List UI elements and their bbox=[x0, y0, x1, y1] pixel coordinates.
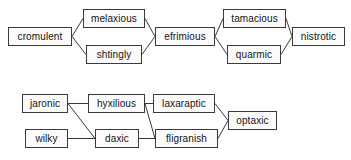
node-label: tamacious bbox=[231, 14, 277, 24]
node-daxic[interactable]: daxic bbox=[95, 129, 139, 148]
node-laxaraptic[interactable]: laxaraptic bbox=[153, 94, 215, 113]
node-tamacious[interactable]: tamacious bbox=[223, 9, 286, 28]
node-wilky[interactable]: wilky bbox=[25, 129, 68, 148]
node-label: hyxilious bbox=[97, 99, 136, 109]
edge-fligranish-to-optaxic bbox=[218, 121, 228, 139]
node-label: fligranish bbox=[166, 134, 207, 144]
node-label: jaronic bbox=[30, 99, 60, 109]
edge-laxaraptic-to-optaxic bbox=[215, 104, 228, 121]
node-label: optaxic bbox=[236, 116, 268, 126]
node-label: efrimious bbox=[164, 32, 205, 42]
node-nistrotic[interactable]: nistrotic bbox=[292, 27, 345, 46]
node-label: nistrotic bbox=[301, 32, 336, 42]
edge-efrimious-to-quarmic bbox=[215, 37, 227, 55]
node-optaxic[interactable]: optaxic bbox=[228, 111, 277, 130]
edge-efrimious-to-tamacious bbox=[215, 19, 223, 37]
node-label: shtingly bbox=[97, 50, 132, 60]
node-jaronic[interactable]: jaronic bbox=[22, 94, 68, 113]
node-quarmic[interactable]: quarmic bbox=[227, 45, 281, 64]
node-fligranish[interactable]: fligranish bbox=[155, 129, 218, 148]
node-label: quarmic bbox=[236, 50, 272, 60]
edge-melaxious-to-efrimious bbox=[145, 19, 155, 37]
node-melaxious[interactable]: melaxious bbox=[83, 9, 145, 28]
node-efrimious[interactable]: efrimious bbox=[155, 27, 215, 46]
edge-cromulent-to-melaxious bbox=[72, 19, 83, 37]
node-cromulent[interactable]: cromulent bbox=[8, 27, 72, 46]
node-label: wilky bbox=[35, 134, 57, 144]
node-label: laxaraptic bbox=[162, 99, 206, 109]
edge-cromulent-to-shtingly bbox=[72, 37, 86, 55]
node-label: melaxious bbox=[91, 14, 137, 24]
node-shtingly[interactable]: shtingly bbox=[86, 45, 142, 64]
node-label: daxic bbox=[105, 134, 129, 144]
edge-shtingly-to-efrimious bbox=[142, 37, 155, 55]
edge-quarmic-to-nistrotic bbox=[281, 37, 292, 55]
node-hyxilious[interactable]: hyxilious bbox=[88, 94, 145, 113]
diagram-canvas: cromulentmelaxiousshtinglyefrimioustamac… bbox=[0, 0, 351, 160]
node-label: cromulent bbox=[18, 32, 63, 42]
